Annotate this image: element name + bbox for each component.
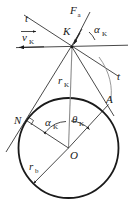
label-alpha-k-top-subscript: K bbox=[102, 30, 107, 38]
velocity-vector-arrow bbox=[19, 47, 44, 48]
label-radius-k: r bbox=[58, 74, 63, 86]
label-alpha-k-center: α bbox=[45, 116, 51, 128]
label-tangent-right: t bbox=[117, 70, 121, 82]
label-force: F bbox=[69, 4, 77, 16]
radius-b-line bbox=[34, 148, 69, 184]
point-k-dot bbox=[71, 46, 74, 49]
label-alpha-k-top: α bbox=[94, 23, 100, 35]
force-vector-line bbox=[72, 12, 90, 47]
label-velocity-subscript: K bbox=[29, 38, 34, 46]
label-radius-b: r bbox=[29, 160, 34, 172]
label-velocity: v bbox=[22, 31, 27, 43]
label-point-n: N bbox=[13, 114, 22, 126]
label-theta-k-subscript: K bbox=[79, 120, 84, 128]
label-radius-k-subscript: K bbox=[64, 81, 69, 89]
label-radius-b-subscript: b bbox=[35, 167, 39, 175]
diagram-canvas: t t F a v K K α K r K A N α K θ K O r b bbox=[0, 0, 134, 223]
label-force-subscript: a bbox=[78, 11, 82, 19]
geometry-figure: t t F a v K K α K r K A N α K θ K O r b bbox=[0, 0, 134, 223]
label-alpha-k-center-subscript: K bbox=[53, 123, 58, 131]
label-point-k: K bbox=[62, 25, 71, 37]
right-angle-marker-n bbox=[29, 118, 34, 126]
force-vector-arrowhead bbox=[74, 33, 80, 44]
label-theta-k: θ bbox=[72, 113, 78, 125]
line-o-to-a bbox=[69, 105, 109, 149]
label-point-o: O bbox=[70, 149, 78, 161]
label-point-a: A bbox=[105, 93, 113, 105]
